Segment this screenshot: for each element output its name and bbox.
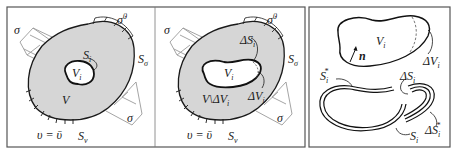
label-S-sigma: Sσ — [288, 52, 299, 68]
label-sigma-dot: σ̇0 — [267, 12, 277, 27]
figure: σ σ σ̇0 Sσ Si Vi V υ = ῡ Sv — [0, 0, 457, 155]
surface-delta-S_i-double — [404, 84, 434, 122]
label-v-eq-vbar: υ = ῡ — [37, 128, 63, 142]
label-sigma-bottom: σ — [127, 111, 134, 125]
label-delta-V-i: ΔVi — [247, 89, 265, 105]
label-sigma-bottom: σ — [277, 111, 284, 125]
label-S-v: Sv — [78, 129, 88, 145]
panel-left: σ σ σ̇0 Sσ Si Vi V υ = ῡ Sv — [14, 12, 149, 145]
surface-S_i-double — [320, 86, 406, 131]
label-S-sigma: Sσ — [138, 52, 149, 68]
label-V-minus-delta-V-i: V\ΔVi — [202, 92, 229, 108]
label-S-i-star: Si* — [320, 67, 328, 85]
label-delta-S-i: ΔSi — [239, 33, 255, 49]
label-delta-S-i: ΔSi — [399, 69, 415, 85]
label-n: n — [359, 49, 366, 63]
label-sigma-dot: σ̇0 — [117, 12, 127, 27]
label-S-i: Si — [410, 129, 418, 145]
label-S-v: Sv — [228, 129, 238, 145]
panel-right: Vi n ΔVi Si* ΔSi ΔSi* Si — [320, 16, 440, 145]
panel-middle: σ σ σ̇0 Sσ ΔSi Vi ΔVi V\ΔVi υ = ῡ Sv — [164, 12, 299, 145]
label-sigma-top: σ — [164, 23, 171, 37]
label-v-eq-vbar: υ = ῡ — [187, 128, 213, 142]
label-delta-S-i-star: ΔSi* — [424, 121, 440, 139]
label-delta-V-i: ΔVi — [422, 54, 440, 70]
label-sigma-top: σ — [14, 23, 21, 37]
